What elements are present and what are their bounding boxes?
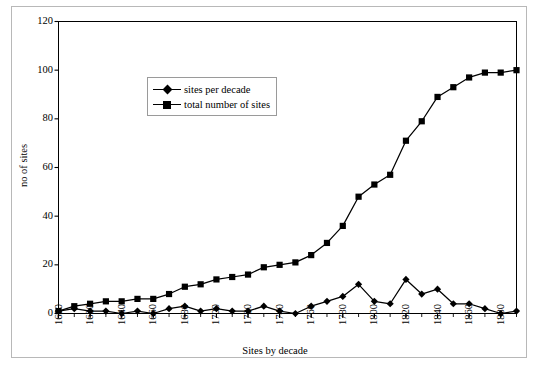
x-axis-tick-label: 1840: [432, 302, 443, 342]
legend-item-total-number-of-sites: total number of sites: [153, 97, 271, 112]
x-axis-title: Sites by decade: [0, 345, 550, 356]
legend-item-sites-per-decade: sites per decade: [153, 82, 271, 97]
chart-page: 020406080100120 no of sites 160016201640…: [0, 0, 550, 374]
legend-label: total number of sites: [181, 99, 270, 110]
x-axis-tick-label: 1660: [147, 302, 158, 342]
x-axis-tick-label: 1800: [368, 302, 379, 342]
legend-label: sites per decade: [181, 84, 250, 95]
x-axis-tick-label: 1720: [242, 302, 253, 342]
x-axis-tick-label: 1620: [84, 302, 95, 342]
x-axis-tick-label: 1680: [179, 302, 190, 342]
x-axis-tick-label: 1640: [116, 302, 127, 342]
x-axis-tick-label: 1740: [274, 302, 285, 342]
x-axis-tick-label: 1700: [210, 302, 221, 342]
square-marker-icon: [153, 99, 181, 111]
x-axis-tick-label: 1600: [53, 302, 64, 342]
x-axis-tick-label: 1880: [495, 302, 506, 342]
x-axis-tick-label: 1860: [463, 302, 474, 342]
x-axis-tick-label: 1780: [337, 302, 348, 342]
diamond-marker-icon: [153, 84, 181, 96]
x-axis-tick-label: 1760: [305, 302, 316, 342]
chart-legend: sites per decade total number of sites: [147, 77, 277, 116]
x-axis-tick-label: 1820: [400, 302, 411, 342]
